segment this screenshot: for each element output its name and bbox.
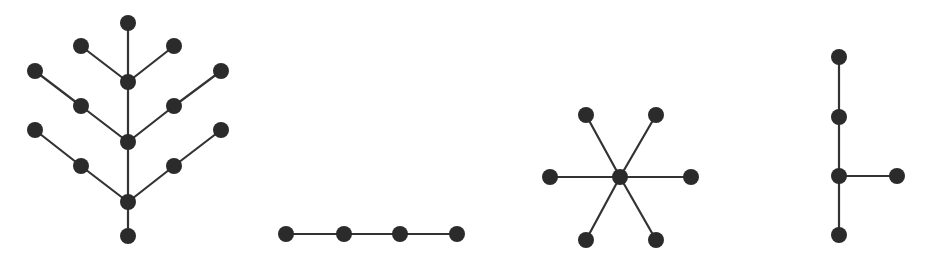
node [166,38,182,54]
node [73,38,89,54]
edge [81,46,128,82]
node [120,15,136,31]
node [336,226,352,242]
node [542,169,558,185]
node [831,227,847,243]
edge [174,71,221,106]
node [648,107,664,123]
edge [174,130,221,166]
node [831,168,847,184]
edge [620,177,656,240]
node [73,158,89,174]
edge [35,71,81,106]
node [120,194,136,210]
edge [128,106,174,142]
node [449,226,465,242]
node [120,74,136,90]
node [27,122,43,138]
edge [586,177,620,240]
node [278,226,294,242]
node [578,107,594,123]
edge [128,166,174,202]
node [213,63,229,79]
edge [35,130,81,166]
edge [586,115,620,177]
node [889,168,905,184]
node [683,169,699,185]
node [120,134,136,150]
node [831,109,847,125]
edge [128,46,174,82]
graph-diagram [0,0,938,265]
node [578,232,594,248]
node [648,232,664,248]
node [166,158,182,174]
node [166,98,182,114]
spur-tree [831,49,905,243]
edge [81,106,128,142]
node [392,226,408,242]
branched-tree [27,15,229,244]
star-graph [542,107,699,248]
edge [620,115,656,177]
node [120,228,136,244]
node [213,122,229,138]
node [27,63,43,79]
node [73,98,89,114]
edge [81,166,128,202]
node [831,49,847,65]
node [612,169,628,185]
path-graph [278,226,465,242]
